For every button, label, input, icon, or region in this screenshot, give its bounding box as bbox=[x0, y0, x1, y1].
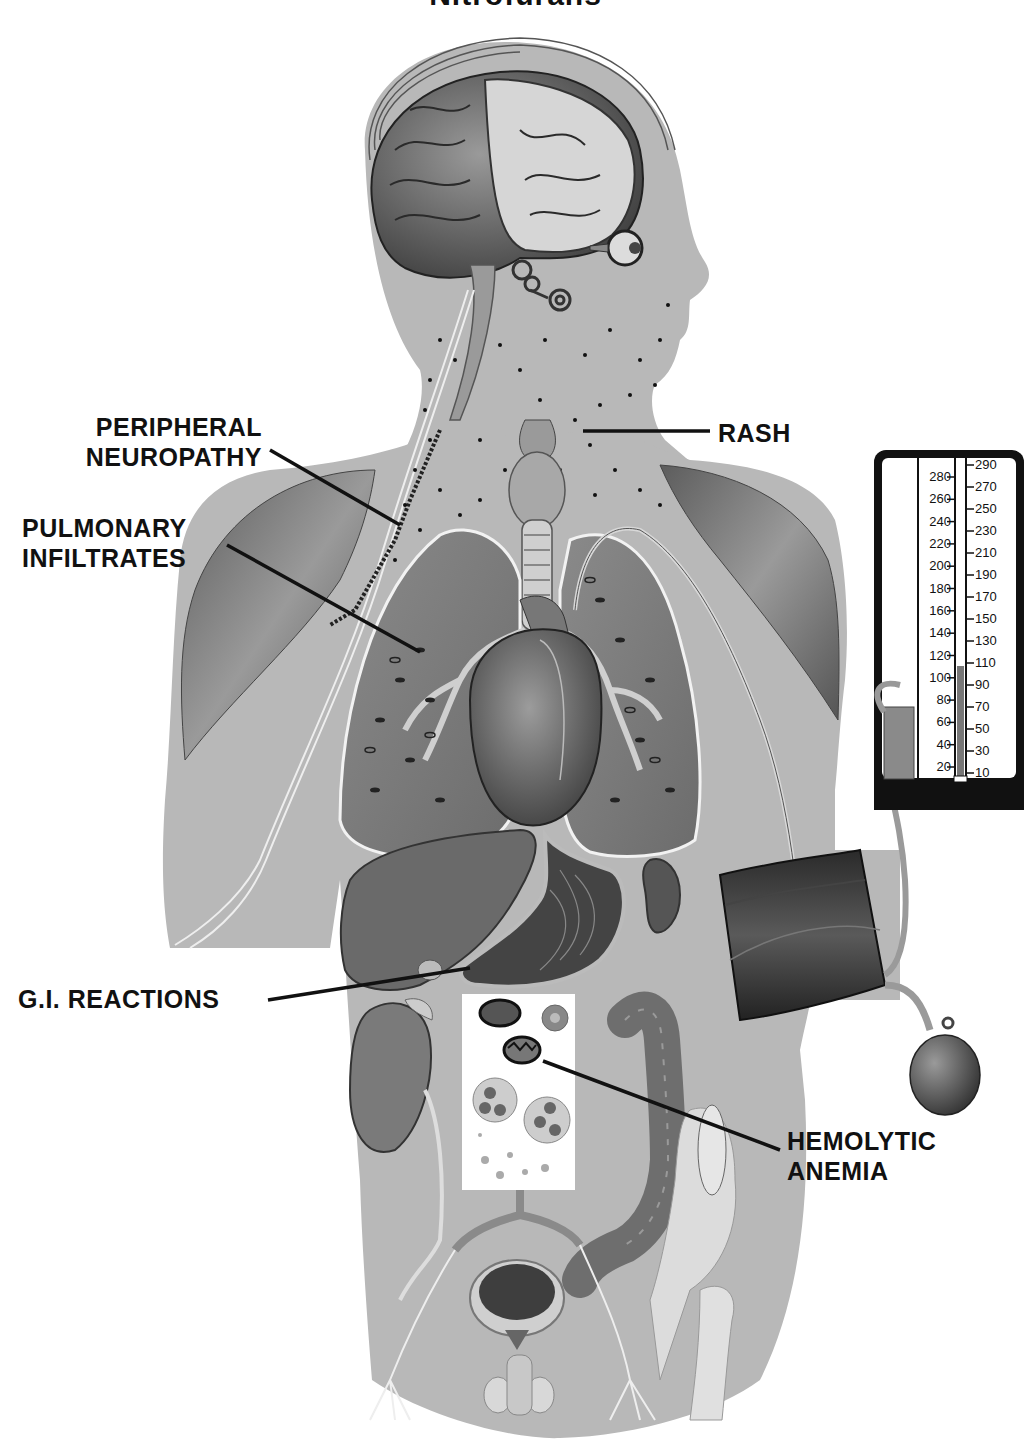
label-peripheral-neuropathy: PERIPHERAL NEUROPATHY bbox=[40, 412, 262, 472]
label-line: HEMOLYTIC bbox=[787, 1126, 936, 1156]
gauge-tick-label: 250 bbox=[975, 501, 997, 516]
label-line: INFILTRATES bbox=[22, 543, 187, 573]
label-line: NEUROPATHY bbox=[40, 442, 262, 472]
gauge-tick-label: 170 bbox=[975, 589, 997, 604]
label-line: G.I. REACTIONS bbox=[18, 985, 219, 1013]
gauge-tick-label: 10 bbox=[975, 765, 989, 780]
gauge-tick-label: 270 bbox=[975, 479, 997, 494]
gauge-tick-label: 50 bbox=[975, 721, 989, 736]
gauge-tick-label: 130 bbox=[975, 633, 997, 648]
label-hemolytic-anemia: HEMOLYTIC ANEMIA bbox=[787, 1126, 936, 1186]
label-line: PERIPHERAL bbox=[40, 412, 262, 442]
gauge-tick-label: 150 bbox=[975, 611, 997, 626]
diagram-stage: Nitrofurans bbox=[0, 0, 1031, 1444]
label-line: RASH bbox=[718, 419, 791, 447]
label-rash: RASH bbox=[718, 418, 791, 448]
gauge-tick-label: 70 bbox=[975, 699, 989, 714]
gauge-tick-label: 290 bbox=[975, 457, 997, 472]
label-gi-reactions: G.I. REACTIONS bbox=[18, 984, 219, 1014]
label-line: ANEMIA bbox=[787, 1156, 936, 1186]
gauge-tick-label: 110 bbox=[975, 655, 996, 670]
gauge-tick-label: 30 bbox=[975, 743, 989, 758]
blood-smear-inset bbox=[462, 994, 575, 1190]
anatomy-illustration: 28026024022020018016014012010080604020 2… bbox=[0, 0, 1031, 1444]
gauge-tick-label: 90 bbox=[975, 677, 989, 692]
label-pulmonary-infiltrates: PULMONARY INFILTRATES bbox=[22, 513, 187, 573]
gauge-tick-label: 230 bbox=[975, 523, 997, 538]
gauge-tick-label: 190 bbox=[975, 567, 997, 582]
inflation-bulb bbox=[910, 1035, 980, 1115]
gauge-tick-label: 210 bbox=[975, 545, 997, 560]
label-line: PULMONARY bbox=[22, 513, 187, 543]
